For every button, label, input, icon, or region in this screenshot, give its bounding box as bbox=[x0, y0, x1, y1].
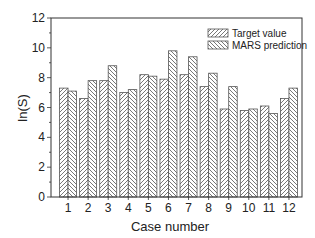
x-tick-label: 5 bbox=[145, 201, 152, 215]
bar bbox=[229, 87, 238, 197]
x-tick-label: 10 bbox=[242, 201, 256, 215]
y-axis-label: ln(S) bbox=[15, 94, 30, 121]
x-tick-label: 6 bbox=[165, 201, 172, 215]
x-tick-label: 9 bbox=[225, 201, 232, 215]
bar bbox=[148, 76, 157, 197]
bar bbox=[249, 109, 258, 197]
bar bbox=[180, 75, 189, 197]
x-tick-label: 11 bbox=[263, 201, 276, 215]
bar bbox=[240, 110, 249, 197]
bar bbox=[189, 57, 198, 197]
legend: Target valueMARS prediction bbox=[208, 28, 307, 51]
legend-swatch bbox=[208, 29, 228, 37]
x-tick-label: 1 bbox=[65, 201, 72, 215]
bar bbox=[140, 75, 149, 197]
x-tick-label: 2 bbox=[85, 201, 92, 215]
bar bbox=[80, 99, 89, 197]
x-tick-label: 7 bbox=[185, 201, 192, 215]
y-tick-label: 10 bbox=[32, 41, 46, 55]
y-tick-label: 12 bbox=[32, 11, 46, 25]
y-tick-label: 6 bbox=[38, 101, 45, 115]
bar bbox=[260, 106, 269, 197]
bar bbox=[220, 109, 229, 197]
bar bbox=[209, 73, 218, 197]
plot-area bbox=[60, 51, 298, 197]
bar bbox=[120, 93, 128, 197]
bar bbox=[200, 87, 209, 197]
x-tick-label: 4 bbox=[125, 201, 132, 215]
y-tick-label: 8 bbox=[38, 71, 45, 85]
bar bbox=[108, 66, 117, 197]
legend-swatch bbox=[208, 41, 228, 49]
legend-label: Target value bbox=[232, 28, 287, 39]
bar bbox=[168, 51, 177, 197]
bar bbox=[68, 91, 77, 197]
bar bbox=[60, 88, 69, 197]
bar bbox=[269, 113, 278, 197]
bar bbox=[160, 79, 169, 197]
legend-label: MARS prediction bbox=[232, 40, 307, 51]
y-tick-label: 2 bbox=[38, 160, 45, 174]
x-tick-label: 12 bbox=[282, 201, 296, 215]
x-tick-label: 8 bbox=[205, 201, 212, 215]
bar bbox=[88, 81, 97, 197]
bar bbox=[100, 81, 109, 197]
y-tick-label: 4 bbox=[38, 130, 45, 144]
bar bbox=[280, 99, 289, 197]
x-tick-label: 3 bbox=[105, 201, 112, 215]
bar bbox=[289, 88, 298, 197]
y-tick-label: 0 bbox=[38, 190, 45, 204]
bar-chart: 123456789101112024681012 Target valueMAR… bbox=[0, 0, 315, 238]
x-axis-label: Case number bbox=[131, 219, 210, 234]
bar bbox=[128, 90, 137, 197]
